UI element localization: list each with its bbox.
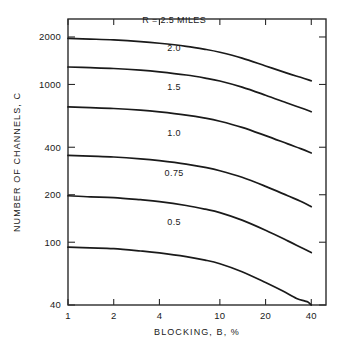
- chart-page: R = 2.5 MILES2.01.51.00.750.5 124102040 …: [0, 0, 342, 342]
- y-tick-label: 2000: [39, 31, 61, 42]
- x-tick-label: 10: [214, 310, 225, 321]
- x-axis-title: BLOCKING, B, %: [154, 327, 240, 337]
- y-tick-label: 1000: [39, 79, 61, 90]
- x-tick-label: 20: [260, 310, 271, 321]
- curve-label-5: 0.5: [167, 217, 181, 227]
- x-tick-label: 1: [65, 310, 70, 321]
- y-tick-label: 40: [50, 299, 61, 310]
- curve-label-0: R = 2.5 MILES: [142, 15, 206, 25]
- x-tick-label: 4: [157, 310, 162, 321]
- y-tick-label: 100: [45, 237, 61, 248]
- x-tick-label: 40: [306, 310, 317, 321]
- curve-label-1: 2.0: [167, 43, 181, 53]
- y-tick-label: 400: [45, 142, 61, 153]
- curve-label-4: 0.75: [165, 168, 184, 178]
- x-tick-label: 2: [111, 310, 116, 321]
- curve-label-3: 1.0: [167, 128, 181, 138]
- y-tick-label: 200: [45, 189, 61, 200]
- y-axis-title: NUMBER OF CHANNELS, C: [12, 92, 22, 232]
- log-log-line-chart: R = 2.5 MILES2.01.51.00.750.5 124102040 …: [0, 0, 342, 342]
- curve-label-2: 1.5: [167, 82, 181, 92]
